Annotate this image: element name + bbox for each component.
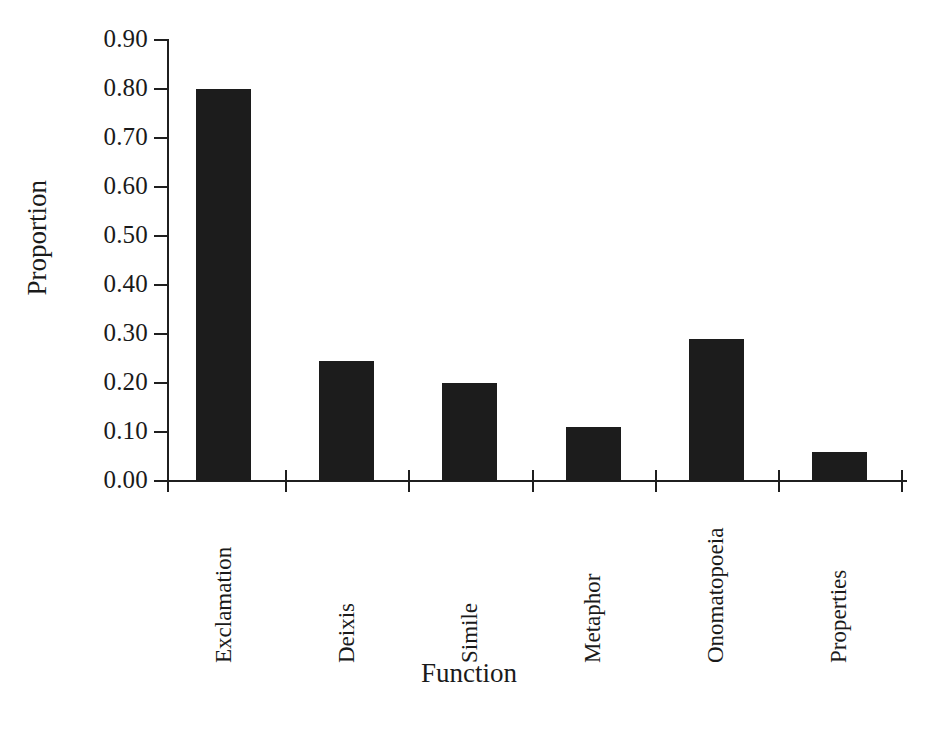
x-tick-mark: [285, 470, 287, 492]
category-label: Onomatopoeia: [704, 528, 727, 663]
y-tick-mark: [154, 382, 168, 384]
x-tick-mark: [778, 470, 780, 492]
y-tick-label: 0.50: [72, 222, 148, 247]
y-tick-mark: [154, 284, 168, 286]
x-tick-mark: [532, 470, 534, 492]
y-tick-label: 0.30: [72, 320, 148, 345]
y-tick-mark: [154, 333, 168, 335]
y-tick-mark: [154, 235, 168, 237]
bar: [566, 427, 621, 481]
y-tick-label: 0.10: [72, 418, 148, 443]
x-tick-mark: [901, 470, 903, 492]
y-axis-line: [167, 39, 169, 483]
y-tick-mark: [154, 186, 168, 188]
y-tick-label: 0.70: [72, 124, 148, 149]
y-tick-label: 0.00: [72, 467, 148, 492]
bar: [319, 361, 374, 481]
y-tick-mark: [154, 39, 168, 41]
y-tick-label: 0.40: [72, 271, 148, 296]
category-label: Simile: [458, 603, 481, 663]
x-axis-title: Function: [0, 658, 938, 689]
y-tick-label: 0.60: [72, 173, 148, 198]
y-tick-label: 0.20: [72, 369, 148, 394]
category-label: Deixis: [335, 603, 358, 663]
y-axis-title: Proportion: [22, 180, 53, 296]
bar: [689, 339, 744, 481]
bar: [196, 89, 251, 481]
y-tick-mark: [154, 431, 168, 433]
y-tick-mark: [154, 137, 168, 139]
y-tick-label: 0.90: [72, 26, 148, 51]
x-tick-mark-origin: [167, 470, 169, 492]
y-tick-label: 0.80: [72, 75, 148, 100]
y-tick-mark: [154, 480, 168, 482]
x-axis-line: [167, 480, 907, 482]
category-label: Properties: [827, 570, 850, 663]
bar: [812, 452, 867, 481]
x-tick-mark: [408, 470, 410, 492]
bar-chart: Proportion 0.900.800.700.600.500.400.300…: [0, 0, 938, 735]
x-tick-mark: [655, 470, 657, 492]
category-label: Metaphor: [581, 574, 604, 663]
bar: [442, 383, 497, 481]
category-label: Exclamation: [212, 547, 235, 663]
y-tick-mark: [154, 88, 168, 90]
